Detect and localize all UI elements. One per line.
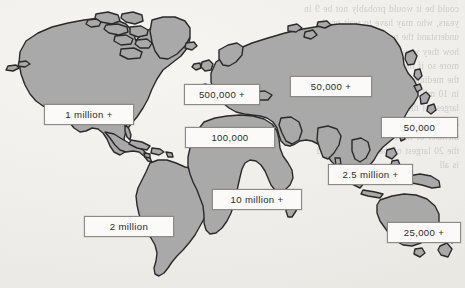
landmass-japan-2 — [427, 104, 436, 114]
landmass-tasmania — [414, 248, 425, 257]
landmass-japan-1 — [420, 92, 430, 104]
landmass-aleutians-2 — [6, 65, 19, 71]
landmass-kamchatka — [405, 50, 417, 65]
landmass-java — [361, 190, 383, 198]
landmass-arctic-island-5 — [86, 19, 101, 27]
landmass-arctic-island-4 — [130, 26, 148, 37]
landmass-british-isles — [201, 60, 213, 71]
callout-africa[interactable]: 10 million + — [212, 189, 302, 210]
landmass-philippines-1 — [386, 148, 397, 159]
callout-south-america[interactable]: 2 million — [84, 216, 174, 237]
landmass-antilles-1 — [166, 152, 173, 157]
landmass-hudson-rim — [120, 48, 142, 59]
callout-europe[interactable]: 500,000 + — [184, 84, 260, 105]
landmass-sakhalin — [414, 69, 422, 80]
callout-east-asia[interactable]: 50,000 — [381, 117, 458, 138]
landmass-new-zealand-south — [438, 243, 452, 257]
callout-mediterranean[interactable]: 100,000 — [185, 127, 275, 148]
callout-russia-north-asia[interactable]: 50,000 + — [290, 76, 372, 97]
callout-south-east-asia[interactable]: 2.5 million + — [328, 164, 413, 185]
landmass-arctic-island-7 — [135, 39, 152, 48]
world-population-map-page: could be it would probably not be 9 in y… — [0, 0, 465, 288]
landmass-arctic-island-2 — [121, 12, 143, 24]
landmass-iceland — [185, 42, 197, 50]
callout-oceania[interactable]: 25,000 + — [387, 222, 461, 243]
callout-north-america[interactable]: 1 million + — [44, 104, 134, 125]
landmass-ireland — [192, 63, 201, 70]
landmass-antilles-2 — [144, 153, 150, 158]
landmass-hispaniola — [151, 148, 164, 155]
